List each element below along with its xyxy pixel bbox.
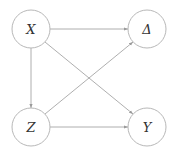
node-y-label: Y: [143, 120, 153, 135]
causal-diagram: X Δ Z Y: [0, 0, 173, 156]
node-y: Y: [128, 108, 166, 146]
node-x: X: [12, 10, 50, 48]
node-delta-label: Δ: [141, 22, 151, 37]
edges: [31, 29, 133, 127]
node-x-label: X: [25, 22, 36, 37]
node-z-label: Z: [25, 120, 36, 135]
node-z: Z: [12, 108, 50, 146]
node-delta: Δ: [128, 10, 166, 48]
